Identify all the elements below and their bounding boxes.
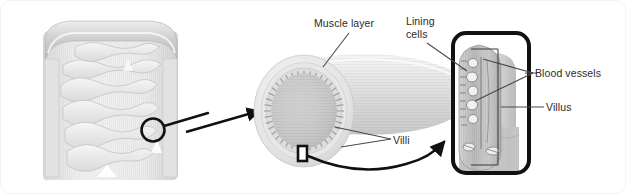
leader-blood-vessels-b: [475, 73, 533, 101]
leader-blood-vessels-a: [483, 59, 533, 73]
leader-villi-a: [335, 127, 391, 139]
label-villus: Villus: [546, 101, 572, 114]
label-lining-cells-line2: cells: [406, 28, 428, 40]
leader-muscle-layer: [323, 33, 349, 67]
label-blood-vessels: Blood vessels: [535, 67, 601, 80]
label-lining-cells-line1: Lining: [406, 15, 435, 27]
leader-villi-b: [341, 139, 391, 147]
label-villi: Villi: [393, 134, 410, 147]
label-leader-lines: [1, 1, 626, 194]
intestine-villi-diagram: Muscle layer Liningcells Blood vessels V…: [0, 0, 626, 194]
leader-lining-cells: [427, 43, 467, 71]
label-muscle-layer: Muscle layer: [314, 17, 374, 30]
label-lining-cells: Liningcells: [406, 15, 435, 40]
